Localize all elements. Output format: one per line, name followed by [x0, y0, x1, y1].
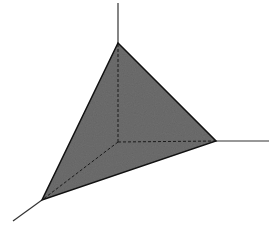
simplex-face — [42, 43, 216, 200]
y-axis-line — [13, 200, 42, 221]
simplex-diagram — [0, 0, 277, 233]
